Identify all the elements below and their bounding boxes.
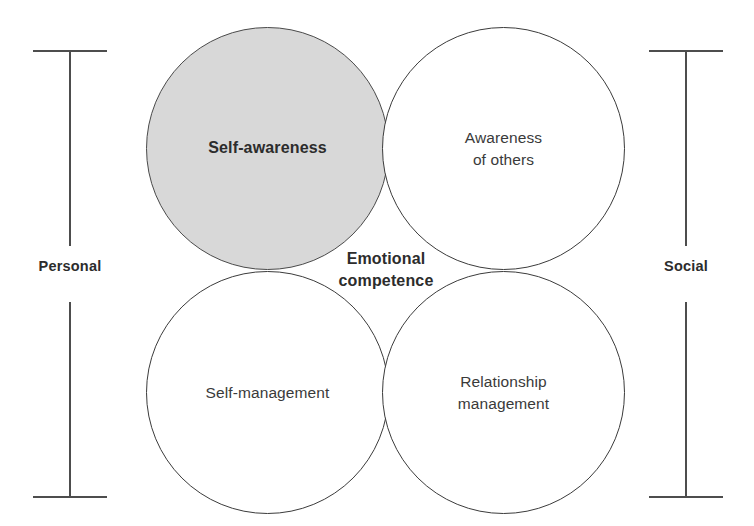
bracket-personal-label: Personal [15,255,125,277]
bracket-social-label: Social [631,255,741,277]
circle-self-awareness[interactable]: Self-awareness [146,27,389,270]
circle-self-management-label: Self-management [192,382,344,403]
circle-relationship-management-label: Relationship management [444,371,563,414]
circle-awareness-of-others-label: Awareness of others [451,127,556,170]
emotional-competence-diagram: Personal Social Self-awareness Awareness… [0,0,754,526]
circle-relationship-management[interactable]: Relationship management [382,271,625,514]
bracket-social-lower-stem [685,302,687,498]
bracket-social: Social [649,50,723,498]
bracket-personal-upper-stem [69,50,71,246]
circle-awareness-of-others[interactable]: Awareness of others [382,27,625,270]
bracket-personal-lower-stem [69,302,71,498]
bracket-social-bottom-cap [649,496,723,498]
bracket-personal-bottom-cap [33,496,107,498]
circle-self-awareness-label: Self-awareness [194,137,341,159]
bracket-personal: Personal [33,50,107,498]
bracket-social-upper-stem [685,50,687,246]
center-label-emotional-competence: Emotional competence [307,248,465,291]
circle-self-management[interactable]: Self-management [146,271,389,514]
